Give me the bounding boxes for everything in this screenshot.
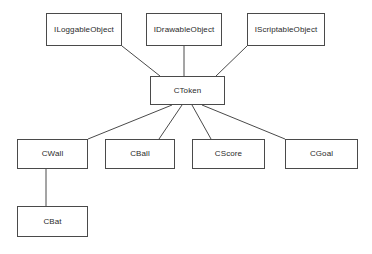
node-cwall[interactable]: CWall (17, 139, 88, 169)
edge-ctoken-to-cscore (192, 105, 211, 139)
node-cgoal[interactable]: CGoal (285, 139, 358, 169)
node-label-ctoken: CToken (174, 87, 202, 95)
node-idrawableobject[interactable]: IDrawableObject (146, 13, 222, 46)
node-label-cgoal: CGoal (310, 150, 333, 158)
node-label-idrawableobject: IDrawableObject (154, 26, 215, 34)
edge-ctoken-to-iscriptableobject (216, 46, 247, 76)
node-label-cscore: CScore (215, 150, 242, 158)
node-label-iscriptableobject: IScriptableObject (255, 26, 318, 34)
node-label-cball: CBall (130, 150, 150, 158)
node-cball[interactable]: CBall (105, 139, 175, 169)
edge-ctoken-to-iloggableobject (122, 46, 160, 76)
edge-ctoken-to-cwall (88, 105, 172, 139)
node-ctoken[interactable]: CToken (150, 76, 225, 105)
node-label-cwall: CWall (42, 150, 64, 158)
node-iscriptableobject[interactable]: IScriptableObject (247, 13, 325, 46)
node-cbat[interactable]: CBat (17, 206, 88, 237)
node-label-iloggableobject: ILoggableObject (54, 26, 114, 34)
edge-ctoken-to-cgoal (202, 105, 285, 139)
node-iloggableobject[interactable]: ILoggableObject (46, 13, 122, 46)
edge-ctoken-to-cball (159, 105, 182, 139)
uml-class-diagram: ILoggableObjectIDrawableObjectIScriptabl… (0, 0, 372, 254)
node-label-cbat: CBat (43, 218, 61, 226)
node-cscore[interactable]: CScore (192, 139, 265, 169)
